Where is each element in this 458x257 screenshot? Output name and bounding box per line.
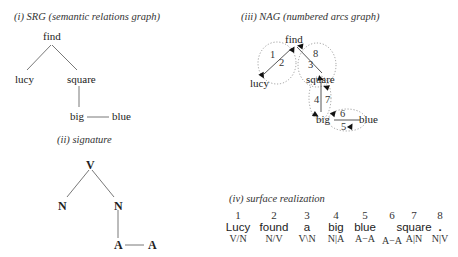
surface-word: . — [422, 221, 458, 233]
position-number: 2 — [256, 209, 292, 221]
nag-node-lucy: lucy — [250, 77, 269, 89]
nag-arc-5: 5 — [341, 121, 346, 132]
surface-word: found — [256, 221, 292, 233]
signature-label: N/V — [256, 233, 292, 244]
nag-arc-8: 8 — [313, 48, 318, 59]
position-number: 8 — [422, 209, 458, 221]
nag-node-find: find — [285, 33, 303, 45]
surface-caption: (iv) surface realization — [229, 193, 325, 204]
nag-node-big: big — [316, 113, 330, 125]
signature-label: N|V — [422, 233, 458, 244]
nag-arc-6: 6 — [340, 108, 345, 119]
surface-word: Lucy — [220, 221, 256, 233]
nag-arc-7: 7 — [325, 94, 330, 105]
surface-column-2: 2 found N/V — [256, 209, 292, 244]
nag-arc-3: 3 — [308, 59, 313, 70]
nag-node-square: square — [306, 73, 335, 85]
surface-column-8: 8 . N|V — [422, 209, 458, 244]
signature-label: V/N — [220, 233, 256, 244]
nag-arc-4: 4 — [314, 94, 319, 105]
surface-column-1: 1 Lucy V/N — [220, 209, 256, 244]
nag-arc-2: 2 — [279, 57, 284, 68]
nag-node-blue: blue — [359, 113, 378, 125]
nag-arc-1: 1 — [270, 49, 275, 60]
position-number: 1 — [220, 209, 256, 221]
